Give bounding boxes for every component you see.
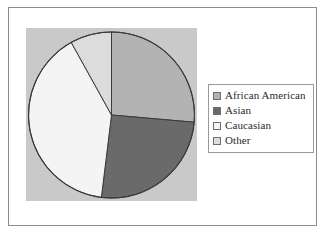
legend-label-asian: Asian bbox=[225, 103, 251, 118]
pie-slices-group bbox=[29, 32, 195, 198]
pie-chart-figure: African American Asian Caucasian Other bbox=[0, 0, 326, 235]
legend-label-african-american: African American bbox=[225, 88, 306, 103]
legend-label-other: Other bbox=[225, 133, 251, 148]
pie-svg bbox=[26, 28, 197, 201]
legend-item-other[interactable]: Other bbox=[213, 133, 309, 148]
pie-chart-area bbox=[26, 28, 197, 201]
legend-item-asian[interactable]: Asian bbox=[213, 103, 309, 118]
legend-swatch-asian bbox=[213, 107, 221, 115]
legend-item-caucasian[interactable]: Caucasian bbox=[213, 118, 309, 133]
chart-legend: African American Asian Caucasian Other bbox=[208, 84, 314, 153]
legend-swatch-african-american bbox=[213, 92, 221, 100]
pie-slice-asian[interactable] bbox=[101, 115, 194, 198]
legend-swatch-caucasian bbox=[213, 122, 221, 130]
pie-slice-african-american[interactable] bbox=[112, 32, 195, 122]
legend-swatch-other bbox=[213, 137, 221, 145]
legend-item-african-american[interactable]: African American bbox=[213, 88, 309, 103]
legend-label-caucasian: Caucasian bbox=[225, 118, 271, 133]
